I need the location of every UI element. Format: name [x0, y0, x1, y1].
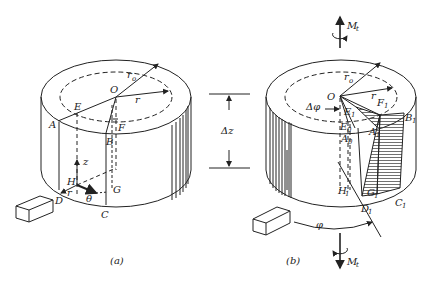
label-A1-sub: 1 [376, 131, 380, 139]
label-r0-sub-a: o [132, 75, 136, 83]
label-dz: Δz [220, 125, 234, 136]
label-A0-sub: 0 [348, 138, 353, 146]
caption-b: (b) [286, 255, 300, 266]
panel-b [253, 17, 416, 268]
label-H-a: H [66, 176, 76, 187]
label-D1-sub: 1 [368, 208, 372, 216]
label-r-axis-a: r [67, 187, 73, 198]
label-dphi: Δφ [305, 101, 320, 112]
label-C-a: C [101, 209, 109, 220]
label-O-b: O [327, 91, 335, 102]
label-F-a: F [117, 122, 126, 133]
label-H1-sub: 1 [345, 190, 349, 198]
label-theta-a: θ [86, 193, 92, 204]
label-r0-sub-b: o [349, 77, 353, 85]
label-G-a: G [113, 184, 121, 195]
label-E-a: E [73, 101, 82, 112]
panel-a [16, 60, 191, 222]
label-B1-sub: 1 [412, 117, 416, 125]
label-z-a: z [82, 156, 89, 167]
label-O-a: O [110, 84, 118, 95]
label-A0: A [340, 133, 348, 144]
torsion-diagram: O r o r E A F B z H G r θ D C (a) Δz [0, 0, 430, 285]
label-C1-sub: 1 [402, 202, 406, 210]
label-Mt-top-sub: t [356, 25, 359, 33]
label-A1: A [368, 126, 376, 137]
label-Mt-bottom-sub: t [356, 261, 359, 269]
label-B-a: B [105, 136, 113, 147]
label-A-a: A [48, 119, 56, 130]
label-D-a: D [54, 195, 63, 206]
label-E1-sub: 1 [351, 111, 355, 119]
caption-a: (a) [110, 255, 124, 266]
label-phi: φ [316, 219, 323, 230]
label-G1-sub: 1 [374, 192, 378, 200]
label-F1-sub: 1 [384, 102, 388, 110]
